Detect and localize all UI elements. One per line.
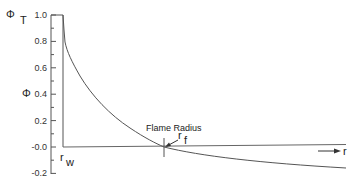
flame-radius-label: Flame Radius xyxy=(146,123,202,133)
r-direction-arrow xyxy=(318,149,341,154)
r-axis-label: r xyxy=(343,145,347,157)
ytick-0.6: 0.6 xyxy=(34,63,47,73)
y-axis xyxy=(51,15,56,174)
ytick-0.4: 0.4 xyxy=(34,89,47,99)
phi-t-label: Φ T xyxy=(6,8,27,26)
r-axis xyxy=(63,145,346,148)
flame-profile-diagram: 1.0 0.8 0.6 0.4 0.2 -0.0 -0.2 Φ T Φ Flam… xyxy=(0,0,363,187)
phi-symbol: Φ xyxy=(6,8,15,20)
ytick-0.2: 0.2 xyxy=(34,116,47,126)
ytick-0.8: 0.8 xyxy=(34,36,47,46)
ytick-neg0.2: -0.2 xyxy=(31,168,47,178)
phi-subscript-t: T xyxy=(20,14,27,26)
rf-symbol: r xyxy=(178,129,182,141)
rw-subscript: w xyxy=(65,156,74,168)
rw-symbol: r xyxy=(60,151,64,163)
y-tick-labels: 1.0 0.8 0.6 0.4 0.2 -0.0 -0.2 xyxy=(31,10,47,178)
y-axis-label: Φ xyxy=(22,87,31,99)
rf-subscript: f xyxy=(184,134,188,146)
ytick-1.0: 1.0 xyxy=(34,10,47,20)
ytick-0.0: -0.0 xyxy=(31,142,47,152)
